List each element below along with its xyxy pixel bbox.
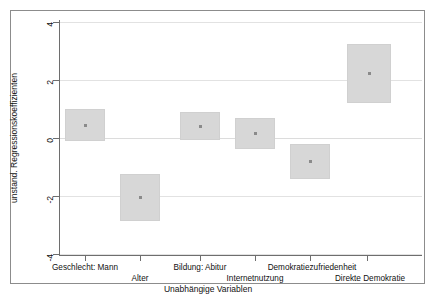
coef-point-demokratiezufriedenheit — [309, 160, 312, 163]
gridline-4 — [59, 22, 422, 23]
coef-box-demokratiezufriedenheit — [290, 144, 330, 179]
x-tick-3 — [200, 256, 201, 261]
x-tick-6 — [367, 256, 368, 261]
y-tick-label-m4: -4 — [45, 254, 55, 262]
coef-box-geschlecht-mann — [65, 109, 105, 141]
coef-point-direkte-demokratie — [368, 72, 371, 75]
coef-point-alter — [139, 196, 142, 199]
x-tick-4 — [255, 256, 256, 261]
y-tick-label-0: 0 — [45, 138, 55, 143]
plot-area — [59, 20, 422, 256]
coef-box-internetnutzung — [235, 118, 275, 149]
y-tick-label-2: 2 — [45, 80, 55, 85]
x-axis-title: Unabhängige Variablen — [164, 284, 252, 294]
x-tick-label-internetnutzung: Internetnutzung — [227, 274, 284, 283]
coef-point-internetnutzung — [254, 132, 257, 135]
x-tick-label-direkte-demokratie: Direkte Demokratie — [335, 274, 405, 283]
y-axis-title: unstand. Regressionskoeffizienten — [9, 73, 19, 203]
x-tick-label-demokratiezufriedenheit: Demokratiezufriedenheit — [268, 263, 357, 272]
x-tick-label-alter: Alter — [132, 274, 149, 283]
y-tick-label-4: 4 — [45, 22, 55, 27]
x-tick-label-bildung-abitur: Bildung: Abitur — [174, 263, 227, 272]
x-tick-5 — [310, 256, 311, 261]
gridline-m2 — [59, 196, 422, 197]
x-tick-1 — [85, 256, 86, 261]
coef-box-alter — [120, 174, 160, 221]
y-axis-line — [59, 20, 60, 256]
x-tick-label-geschlecht-mann: Geschlecht: Mann — [52, 263, 118, 272]
y-tick-label-m2: -2 — [45, 196, 55, 204]
coefficient-plot-figure: 4 2 0 -2 -4 unstand. Regressionskoeffizi… — [0, 0, 436, 302]
coef-point-geschlecht-mann — [84, 124, 87, 127]
coef-box-bildung-abitur — [180, 112, 220, 140]
coef-point-bildung-abitur — [199, 125, 202, 128]
x-tick-2 — [140, 256, 141, 261]
coef-box-direkte-demokratie — [347, 44, 391, 103]
